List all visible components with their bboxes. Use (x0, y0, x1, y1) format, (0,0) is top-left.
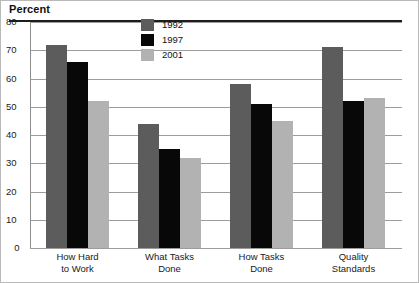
legend-item-1997: 1997 (141, 33, 261, 47)
bar-chart: Percent 01020304050607080 How Hardto Wor… (0, 0, 419, 283)
bar-1997-group-3 (251, 104, 272, 248)
y-tick-label-40: 40 (6, 130, 28, 140)
x-label-group-3-line-1: How Tasks (212, 251, 312, 263)
y-tick-label-10: 10 (6, 215, 28, 225)
gridline-0 (30, 248, 402, 249)
legend-item-2001: 2001 (141, 48, 261, 62)
x-label-group-4: QualityStandards (304, 251, 404, 275)
y-tick-label-0: 0 (8, 243, 26, 253)
bar-1997-group-2 (159, 149, 180, 248)
x-label-group-1: How Hardto Work (28, 251, 128, 275)
y-tick-label-30: 30 (6, 158, 28, 168)
bar-2001-group-2 (180, 158, 201, 248)
y-tick-label-60: 60 (6, 74, 28, 84)
x-label-group-1-line-1: How Hard (28, 251, 128, 263)
y-tick-label-80: 80 (6, 17, 28, 27)
x-label-group-1-line-2: to Work (28, 263, 128, 275)
bar-1997-group-4 (343, 101, 364, 248)
x-label-group-4-line-1: Quality (304, 251, 404, 263)
legend-label-2001: 2001 (162, 49, 183, 61)
bar-2001-group-1 (88, 101, 109, 248)
legend: 199219972001 (141, 18, 261, 63)
x-label-group-2-line-1: What Tasks (120, 251, 220, 263)
chart-title: Percent (9, 2, 50, 16)
legend-label-1992: 1992 (162, 19, 183, 31)
legend-swatch-2001 (141, 49, 154, 61)
x-label-group-2: What TasksDone (120, 251, 220, 275)
x-label-group-3-line-2: Done (212, 263, 312, 275)
y-tick-label-50: 50 (6, 102, 28, 112)
x-label-group-4-line-2: Standards (304, 263, 404, 275)
y-tick-label-20: 20 (6, 187, 28, 197)
x-label-group-2-line-2: Done (120, 263, 220, 275)
bar-1992-group-4 (322, 47, 343, 248)
bar-2001-group-3 (272, 121, 293, 248)
x-label-group-3: How TasksDone (212, 251, 312, 275)
bar-1992-group-2 (138, 124, 159, 248)
legend-swatch-1992 (141, 19, 154, 31)
bar-2001-group-4 (364, 98, 385, 248)
legend-item-1992: 1992 (141, 18, 261, 32)
legend-label-1997: 1997 (162, 34, 183, 46)
y-tick-label-70: 70 (6, 45, 28, 55)
bar-1992-group-3 (230, 84, 251, 248)
legend-swatch-1997 (141, 34, 154, 46)
bar-1992-group-1 (46, 45, 67, 248)
bar-1997-group-1 (67, 62, 88, 248)
